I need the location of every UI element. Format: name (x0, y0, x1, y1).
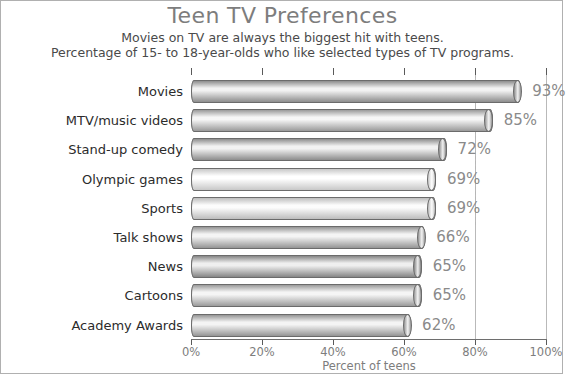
bar[interactable] (191, 314, 411, 337)
bar[interactable] (191, 255, 422, 278)
x-tick-label: 0% (161, 345, 221, 359)
x-tick-label: 100% (516, 345, 570, 359)
bar-body (191, 138, 447, 161)
x-tick-label: 80% (445, 345, 505, 359)
tick-top-100 (546, 68, 547, 75)
bar-body (191, 226, 425, 249)
title-block: Teen TV Preferences Movies on TV are alw… (1, 3, 564, 60)
chart-subtitle-primary: Movies on TV are always the biggest hit … (1, 30, 564, 45)
bar[interactable] (191, 80, 521, 103)
bar-end-cap (417, 226, 426, 249)
chart-title: Teen TV Preferences (1, 3, 564, 29)
value-label: 65% (433, 284, 466, 307)
category-label: Talk shows (1, 226, 183, 249)
bar[interactable] (191, 168, 436, 191)
x-axis-title: Percent of teens (191, 359, 547, 373)
bar-body (191, 284, 422, 307)
category-label: MTV/music videos (1, 109, 183, 132)
x-tick-label: 40% (303, 345, 363, 359)
tick-top-20 (262, 68, 263, 75)
value-label: 69% (447, 168, 480, 191)
tick-top-80 (475, 68, 476, 75)
bar-body (191, 255, 422, 278)
category-label: Sports (1, 197, 183, 220)
value-label: 72% (458, 138, 491, 161)
tick-top-40 (333, 68, 334, 75)
bar-end-cap (403, 314, 412, 337)
bar-end-cap (513, 80, 522, 103)
category-label: News (1, 255, 183, 278)
value-label: 62% (422, 314, 455, 337)
value-label: 93% (532, 80, 565, 103)
value-label: 66% (436, 226, 469, 249)
category-axis-labels: MoviesMTV/music videosStand-up comedyOly… (1, 75, 187, 339)
chart-subtitle-secondary: Percentage of 15- to 18-year-olds who li… (1, 45, 564, 60)
tick-top-0 (191, 68, 192, 75)
bar[interactable] (191, 197, 436, 220)
bar-body (191, 109, 493, 132)
value-label: 85% (504, 109, 537, 132)
x-axis-line (191, 339, 547, 340)
bar-body (191, 168, 436, 191)
x-tick-label: 60% (374, 345, 434, 359)
value-label: 69% (447, 197, 480, 220)
value-label: 65% (433, 255, 466, 278)
category-label: Cartoons (1, 284, 183, 307)
bar[interactable] (191, 109, 493, 132)
gridline-100 (546, 75, 547, 339)
bar-body (191, 197, 436, 220)
category-label: Movies (1, 80, 183, 103)
x-tick-label: 20% (232, 345, 292, 359)
category-label: Academy Awards (1, 314, 183, 337)
category-label: Olympic games (1, 168, 183, 191)
category-label: Stand-up comedy (1, 138, 183, 161)
plot-area: 93%85%72%69%69%66%65%65%62% (191, 75, 546, 339)
bar[interactable] (191, 284, 422, 307)
tick-top-60 (404, 68, 405, 75)
bar[interactable] (191, 138, 447, 161)
bar[interactable] (191, 226, 425, 249)
bar-body (191, 80, 521, 103)
bar-body (191, 314, 411, 337)
chart-frame: Teen TV Preferences Movies on TV are alw… (0, 0, 563, 374)
